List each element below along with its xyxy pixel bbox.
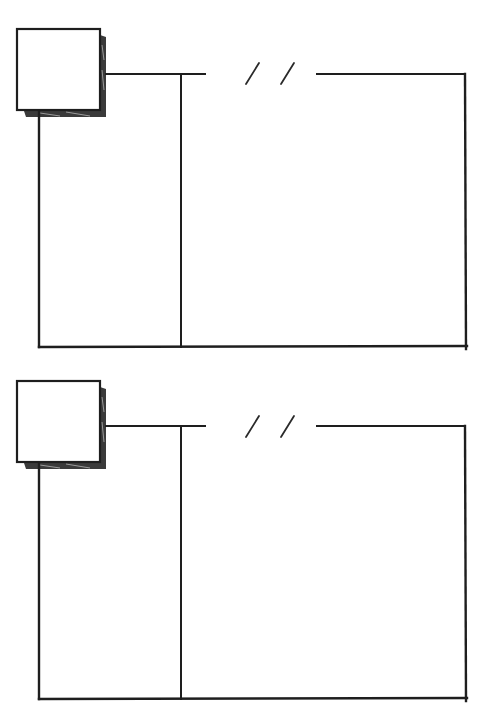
frame-right-edge [465, 74, 466, 349]
diagram-panel-2 [0, 352, 480, 692]
shaded-box [17, 29, 100, 110]
panel-2-drawing [0, 352, 480, 692]
frame-right-edge [465, 426, 466, 701]
diagram-panel-1 [0, 0, 480, 340]
shaded-box [17, 381, 100, 462]
break-marker-icon [246, 63, 294, 84]
break-marker-icon [246, 416, 294, 437]
frame-bottom-edge [39, 698, 467, 699]
frame-bottom-edge [39, 346, 467, 347]
panel-1-drawing [0, 0, 480, 340]
